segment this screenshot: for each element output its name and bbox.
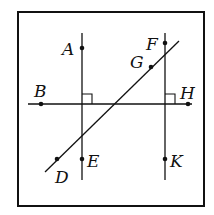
- label-h: H: [179, 83, 196, 103]
- right-angle-marker-left: [82, 94, 92, 104]
- label-k: K: [169, 151, 184, 171]
- point-a: [80, 46, 85, 51]
- point-g: [149, 65, 154, 70]
- point-k: [163, 157, 168, 162]
- label-d: D: [54, 167, 69, 187]
- label-e: E: [86, 151, 100, 171]
- label-g: G: [130, 52, 144, 72]
- label-f: F: [145, 34, 159, 54]
- point-e: [80, 157, 85, 162]
- point-f: [163, 41, 168, 46]
- point-b: [39, 102, 44, 107]
- right-angle-marker-right: [165, 94, 175, 104]
- label-b: B: [33, 81, 47, 101]
- label-a: A: [60, 39, 74, 59]
- frame: [18, 12, 204, 206]
- line-transversal: [45, 41, 179, 172]
- point-d: [55, 157, 60, 162]
- geometry-diagram: AFGBHDEK: [0, 0, 214, 215]
